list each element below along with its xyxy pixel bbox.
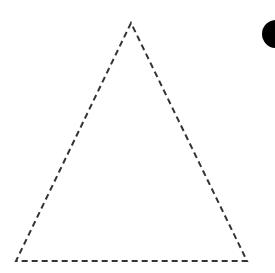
diagram-canvas bbox=[0, 0, 275, 273]
dashed-triangle bbox=[16, 23, 247, 261]
black-dot bbox=[262, 20, 275, 48]
